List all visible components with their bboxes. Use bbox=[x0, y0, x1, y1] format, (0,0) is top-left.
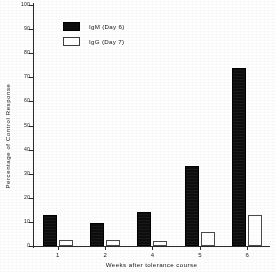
y-tick-label: 40 bbox=[24, 147, 30, 152]
bar-igg bbox=[248, 215, 262, 246]
y-tick-label: 70 bbox=[24, 75, 30, 80]
bar-igm bbox=[90, 223, 104, 246]
y-tick-label: 100 bbox=[21, 2, 30, 7]
y-tick-label: 60 bbox=[24, 99, 30, 104]
x-tick-mark bbox=[58, 246, 59, 250]
x-tick-mark bbox=[105, 246, 106, 250]
x-tick-mark bbox=[247, 246, 248, 250]
bar-igm bbox=[185, 166, 199, 246]
bar-igg bbox=[106, 240, 120, 246]
bar-igm bbox=[137, 212, 151, 246]
figure-panel: IgM (Day 6) IgG (Day 7) 0102030405060708… bbox=[0, 0, 276, 272]
y-tick-label: 90 bbox=[24, 26, 30, 31]
bar-igm bbox=[43, 215, 57, 246]
y-tick-label: 10 bbox=[24, 219, 30, 224]
bar-igg bbox=[201, 232, 215, 246]
x-tick-mark bbox=[200, 246, 201, 250]
x-tick-label: 5 bbox=[198, 252, 201, 258]
bar-igg bbox=[59, 240, 73, 246]
y-axis-title: Percentage of Control Response bbox=[5, 83, 11, 188]
y-tick-label: 80 bbox=[24, 51, 30, 56]
x-tick-mark bbox=[152, 246, 153, 250]
y-axis-title-holder: Percentage of Control Response bbox=[9, 0, 21, 272]
y-tick-label: 0 bbox=[27, 243, 30, 248]
y-tick-label: 30 bbox=[24, 171, 30, 176]
bar-igm bbox=[232, 68, 246, 246]
y-tick-label: 20 bbox=[24, 195, 30, 200]
x-tick-label: 2 bbox=[103, 252, 106, 258]
plot-area: 010203040506070809010012456 bbox=[33, 5, 270, 246]
x-tick-label: 4 bbox=[151, 252, 154, 258]
x-axis-title: Weeks after tolerance course bbox=[33, 261, 270, 268]
x-tick-label: 1 bbox=[56, 252, 59, 258]
x-tick-label: 6 bbox=[246, 252, 249, 258]
y-tick-label: 50 bbox=[24, 123, 30, 128]
bar-igg bbox=[153, 241, 167, 246]
